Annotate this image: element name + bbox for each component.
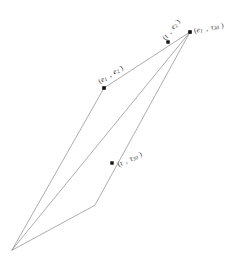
marker-layer (102, 30, 192, 165)
marker-t-tau30 (110, 161, 113, 164)
marker-e1-e2 (102, 86, 106, 90)
diagram-vector-layer (0, 0, 238, 259)
diagram-canvas: (e1 , e2 )(t , e2 )(e1 , τ30 )(t , τ30 ) (0, 0, 238, 259)
region-diagonal-edge (12, 32, 190, 250)
marker-e1-tau30 (188, 30, 192, 34)
marker-t-e2 (166, 40, 169, 43)
